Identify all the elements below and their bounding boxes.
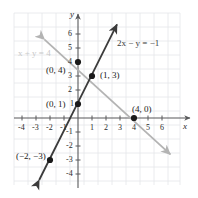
y-tick-1: 1 [70,100,74,108]
x-tick-4: 4 [132,124,136,132]
point-label-neg2-neg3: (−2, −3) [16,152,46,161]
y-axis-label: y [70,10,74,19]
point-0-4 [75,59,81,65]
equation-label-x-plus-y: x + y = 4 [18,49,51,58]
axis-lines [14,14,190,188]
point-neg2-neg3 [47,157,53,163]
x-axis-label: x [183,122,187,131]
point-4-0 [131,115,137,121]
point-1-3 [89,73,95,79]
y-tick-4: 4 [68,58,72,66]
graph-canvas [0,0,198,198]
point-label-0-1: (0, 1) [46,100,66,109]
point-label-1-3: (1, 3) [100,71,120,80]
point-0-1 [75,101,81,107]
y-tick-5: 5 [68,44,72,52]
y-tick-2: 2 [68,86,72,94]
y-tick-neg2: -2 [66,142,73,150]
y-tick-neg3: -3 [66,156,73,164]
y-tick-neg1: -1 [66,128,73,136]
x-tick-3: 3 [118,124,122,132]
y-tick-3: 3 [68,72,72,80]
x-tick-neg3: -3 [32,124,39,132]
point-label-4-0: (4, 0) [132,105,152,114]
y-tick-6: 6 [68,30,72,38]
x-tick-neg4: -4 [18,124,25,132]
x-tick-6: 6 [160,124,164,132]
point-label-0-4: (0, 4) [46,66,66,75]
x-tick-neg2: -2 [46,124,53,132]
x-tick-1: 1 [90,124,94,132]
y-tick-neg4: -4 [66,170,73,178]
x-tick-5: 5 [146,124,150,132]
coordinate-plane-figure: x y -4 -3 -2 -1 1 2 3 4 5 6 6 5 4 3 2 1 … [0,0,198,198]
x-tick-2: 2 [104,124,108,132]
equation-label-2x-minus-y: 2x − y = −1 [117,39,159,48]
